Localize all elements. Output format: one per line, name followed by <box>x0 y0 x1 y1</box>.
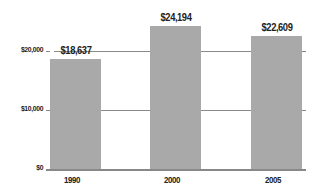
y-tick-label: $20,000 <box>21 45 43 54</box>
x-tick-label: 2005 <box>251 175 295 185</box>
x-axis-baseline <box>46 169 306 171</box>
bar-1990 <box>50 59 101 169</box>
x-tick-label: 2000 <box>150 175 194 185</box>
bar-value-label: $24,194 <box>146 11 206 23</box>
bar-value-label: $22,609 <box>247 21 307 33</box>
y-tick-label: $0 <box>36 163 43 172</box>
bar-2005 <box>251 36 302 169</box>
y-tick-label: $10,000 <box>21 104 43 113</box>
bar-chart: $0$10,000$20,000$18,6371990$24,1942000$2… <box>0 0 321 194</box>
x-tick-label: 1990 <box>50 175 94 185</box>
bar-2000 <box>150 26 201 169</box>
bar-value-label: $18,637 <box>46 44 106 56</box>
